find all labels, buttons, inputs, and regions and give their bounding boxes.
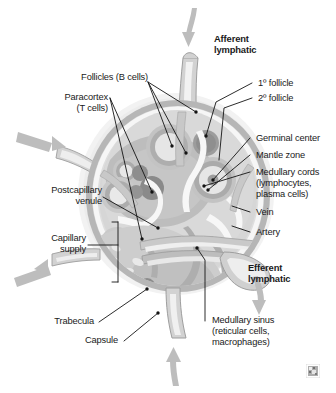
- label-vein: Vein: [256, 207, 274, 218]
- label-artery: Artery: [256, 227, 280, 238]
- label-capsule: Capsule: [58, 335, 118, 346]
- label-follicles-b-cells: Follicles (B cells): [48, 72, 148, 83]
- afferent-lymphatic-vessel: [179, 53, 198, 108]
- label-afferent-lymphatic: Afferent lymphatic: [214, 33, 256, 55]
- label-trabecula: Trabecula: [28, 316, 94, 327]
- label-mantle-zone: Mantle zone: [256, 150, 305, 161]
- label-medullary-cords: Medullary cords (lymphocytes, plasma cel…: [256, 167, 319, 201]
- afferent-arrow-bottom: [166, 347, 181, 386]
- afferent-arrow-top: [182, 8, 197, 47]
- label-capillary-supply: Capillary supply: [18, 233, 86, 255]
- label-secondary-follicle: 2º follicle: [258, 93, 293, 104]
- label-postcapillary-venule: Postcapillary venule: [10, 185, 102, 207]
- afferent-vessel-bottom: [166, 288, 186, 338]
- label-primary-follicle: 1º follicle: [258, 78, 293, 89]
- label-medullary-sinus: Medullary sinus (reticular cells, macrop…: [212, 315, 274, 349]
- figure-canvas: Afferent lymphatic Follicles (B cells) P…: [0, 0, 336, 393]
- follicle-secondary-upper-left: [146, 124, 192, 170]
- label-efferent-lymphatic: Efferent lymphatic: [248, 262, 290, 284]
- label-germinal-center: Germinal center: [256, 133, 320, 144]
- thumbnail-watermark-icon: [306, 364, 320, 378]
- label-paracortex-t-cells: Paracortex (T cells): [28, 92, 108, 114]
